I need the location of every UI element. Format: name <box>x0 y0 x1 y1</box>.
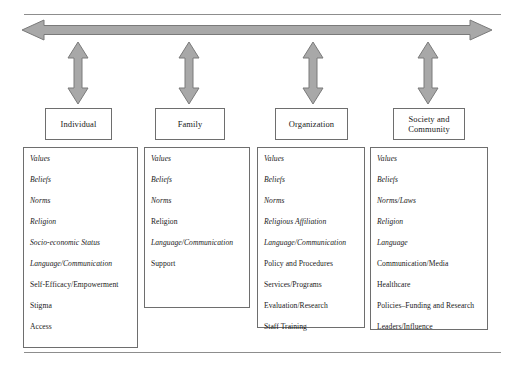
attribute-item: Values <box>377 154 487 175</box>
attribute-list-individual: ValuesBeliefsNormsReligionSocio-economic… <box>23 147 138 348</box>
attribute-item: Norms <box>30 196 137 217</box>
attribute-item: Values <box>30 154 137 175</box>
attribute-item: Language/Communication <box>30 259 137 280</box>
bottom-divider-rule <box>24 352 501 353</box>
attribute-item: Access <box>30 322 137 343</box>
attribute-list-family: ValuesBeliefsNormsReligionLanguage/Commu… <box>144 147 250 308</box>
level-label-line-2: Community <box>408 124 450 134</box>
bidirectional-vertical-arrow-organization <box>301 42 325 104</box>
attribute-list-society-and-community: ValuesBeliefsNorms/LawsReligionLanguageC… <box>370 147 488 330</box>
attribute-item: Norms/Laws <box>377 196 487 217</box>
attribute-item: Religion <box>30 217 137 238</box>
attribute-item: Policy and Procedures <box>264 259 364 280</box>
level-box-family: Family <box>155 108 225 140</box>
attribute-item: Norms <box>264 196 364 217</box>
attribute-item: Religion <box>377 217 487 238</box>
attribute-item: Religious Affiliation <box>264 217 364 238</box>
attribute-item: Beliefs <box>151 175 249 196</box>
attribute-item: Beliefs <box>30 175 137 196</box>
attribute-item: Beliefs <box>377 175 487 196</box>
bidirectional-vertical-arrow-society <box>416 42 440 104</box>
level-label-family: Family <box>178 119 203 130</box>
attribute-item: Values <box>264 154 364 175</box>
attribute-item: Stigma <box>30 301 137 322</box>
attribute-item: Leaders/Influence <box>377 322 487 343</box>
attribute-item: Beliefs <box>264 175 364 196</box>
attribute-item: Values <box>151 154 249 175</box>
attribute-item: Norms <box>151 196 249 217</box>
ecological-levels-diagram: Individual Family Organization Society a… <box>0 0 513 366</box>
top-divider-rule <box>24 14 501 15</box>
level-box-society-and-community: Society and Community <box>393 108 465 140</box>
attribute-item: Support <box>151 259 249 280</box>
level-box-organization: Organization <box>275 108 348 140</box>
attribute-item: Language/Communication <box>264 238 364 259</box>
bidirectional-vertical-arrow-family <box>177 42 201 104</box>
bidirectional-vertical-arrow-individual <box>66 42 90 104</box>
attribute-item: Self-Efficacy/Empowerment <box>30 280 137 301</box>
level-box-individual: Individual <box>45 108 112 140</box>
attribute-item: Socio-economic Status <box>30 238 137 259</box>
level-label-organization: Organization <box>289 119 334 130</box>
attribute-item: Communication/Media <box>377 259 487 280</box>
attribute-item: Language <box>377 238 487 259</box>
level-label-society-and-community: Society and Community <box>408 114 450 135</box>
attribute-item: Evaluation/Research <box>264 301 364 322</box>
attribute-item: Religion <box>151 217 249 238</box>
attribute-item: Language/Communication <box>151 238 249 259</box>
attribute-item: Staff Training <box>264 322 364 343</box>
attribute-item: Policies–Funding and Research <box>377 301 487 322</box>
attribute-list-organization: ValuesBeliefsNormsReligious AffiliationL… <box>257 147 365 328</box>
attribute-item: Services/Programs <box>264 280 364 301</box>
level-label-line-1: Society and <box>409 114 450 124</box>
attribute-item: Healthcare <box>377 280 487 301</box>
bidirectional-horizontal-arrow <box>22 18 492 42</box>
level-label-individual: Individual <box>61 119 97 130</box>
